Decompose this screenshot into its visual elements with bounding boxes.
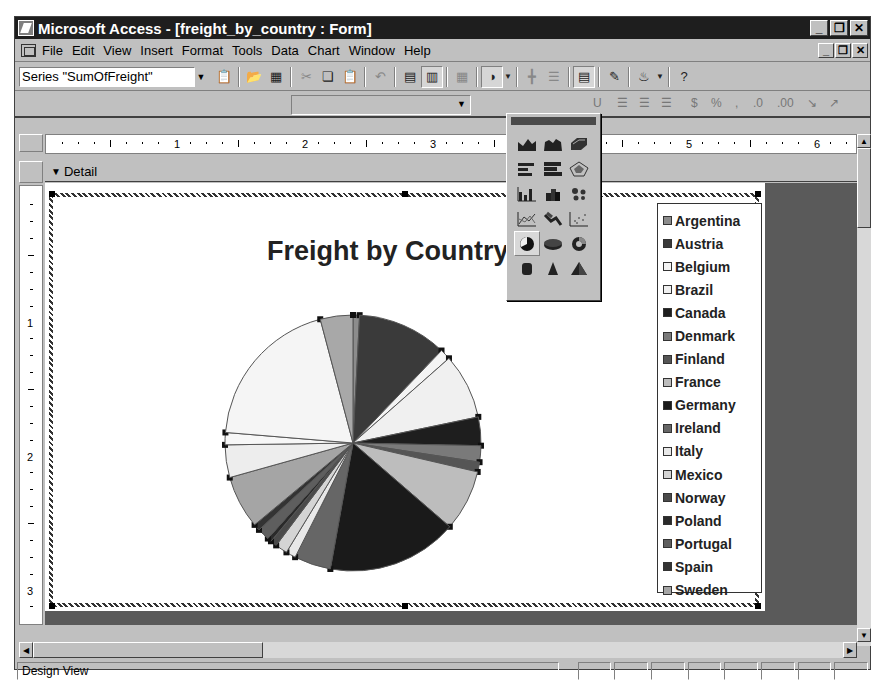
undo-icon[interactable]: ↶ (369, 66, 391, 88)
legend-item[interactable]: Sweden (658, 579, 761, 602)
form-document-icon[interactable] (21, 44, 36, 57)
legend-item[interactable]: Canada (658, 301, 761, 324)
3d-surface-chart-icon[interactable] (566, 131, 592, 156)
menu-file[interactable]: File (42, 43, 63, 58)
angle-text-down-icon[interactable]: ↘ (807, 96, 817, 110)
legend-item[interactable]: France (658, 371, 761, 394)
bubble-chart-icon[interactable] (566, 181, 592, 206)
close-button[interactable]: ✕ (850, 20, 868, 36)
column-chart-icon[interactable] (514, 181, 540, 206)
section-selector[interactable] (19, 161, 43, 183)
3d-line-chart-icon[interactable] (540, 206, 566, 231)
bar-chart-icon[interactable] (514, 156, 540, 181)
line-chart-icon[interactable] (514, 206, 540, 231)
menu-window[interactable]: Window (349, 43, 395, 58)
comma-icon[interactable]: , (735, 96, 738, 110)
legend-item[interactable]: Finland (658, 348, 761, 371)
cone-chart-icon[interactable] (540, 256, 566, 281)
legend-item[interactable]: Brazil (658, 278, 761, 301)
import-file-icon[interactable]: 📂 (243, 66, 265, 88)
by-row-icon[interactable]: ▤ (399, 66, 421, 88)
xy-scatter-chart-icon[interactable] (566, 206, 592, 231)
angle-text-up-icon[interactable]: ↗ (829, 96, 839, 110)
legend-item[interactable]: Argentina (658, 209, 761, 232)
vertical-scrollbar[interactable]: ▲ ▼ (857, 134, 871, 646)
detail-section-header[interactable]: ▼ Detail (45, 162, 857, 182)
form-selector[interactable] (19, 134, 43, 152)
legend-item[interactable]: Ireland (658, 417, 761, 440)
menu-view[interactable]: View (103, 43, 131, 58)
cut-icon[interactable]: ✂ (295, 66, 317, 88)
radar-chart-icon[interactable] (566, 156, 592, 181)
palette-title-bar[interactable] (511, 117, 596, 125)
chevron-down-icon[interactable]: ▼ (457, 99, 466, 109)
restore-button[interactable]: ❐ (830, 20, 848, 36)
3d-bar-chart-icon[interactable] (540, 156, 566, 181)
legend-item[interactable]: Italy (658, 440, 761, 463)
menu-data[interactable]: Data (271, 43, 298, 58)
align-right-icon[interactable]: ☰ (661, 96, 672, 110)
align-left-icon[interactable]: ☰ (617, 96, 628, 110)
3d-area-chart-icon[interactable] (540, 131, 566, 156)
help-icon[interactable]: ? (673, 66, 695, 88)
chart-type-dropdown-icon[interactable]: ▼ (503, 66, 513, 88)
doc-minimize-button[interactable]: _ (818, 43, 834, 58)
menu-insert[interactable]: Insert (140, 43, 173, 58)
decrease-decimal-icon[interactable]: .00 (777, 96, 794, 110)
legend-item[interactable]: Belgium (658, 255, 761, 278)
increase-decimal-icon[interactable]: .0 (753, 96, 763, 110)
drawing-icon[interactable]: ✎ (603, 66, 625, 88)
legend-item[interactable]: Austria (658, 232, 761, 255)
doc-close-button[interactable]: ✕ (852, 43, 868, 58)
area-chart-icon[interactable] (514, 131, 540, 156)
fill-color-dropdown-icon[interactable]: ▼ (655, 66, 665, 88)
scroll-left-icon[interactable]: ◀ (19, 642, 33, 658)
underline-icon[interactable]: U (593, 96, 602, 110)
legend-item[interactable]: Mexico (658, 463, 761, 486)
percent-icon[interactable]: % (711, 96, 722, 110)
pie-chart[interactable] (221, 311, 485, 575)
legend-item[interactable]: Norway (658, 486, 761, 509)
category-gridlines-icon[interactable]: ╋ (521, 66, 543, 88)
scroll-right-icon[interactable]: ▶ (843, 642, 857, 658)
font-combo[interactable]: ▼ (291, 95, 471, 115)
view-datasheet-icon[interactable]: ▦ (265, 66, 287, 88)
scroll-down-icon[interactable]: ▼ (857, 628, 871, 642)
doc-restore-button[interactable]: ❐ (835, 43, 851, 58)
cylinder-chart-icon[interactable] (514, 256, 540, 281)
legend-item[interactable]: Portugal (658, 532, 761, 555)
pie-chart-icon[interactable] (514, 231, 540, 256)
3d-column-chart-icon[interactable] (540, 181, 566, 206)
menu-format[interactable]: Format (182, 43, 223, 58)
chart-title[interactable]: Freight by Country (267, 236, 509, 267)
menu-help[interactable]: Help (404, 43, 431, 58)
by-column-icon[interactable]: ▥ (421, 66, 443, 88)
copy-icon[interactable]: ❏ (317, 66, 339, 88)
currency-icon[interactable]: $ (691, 96, 698, 110)
legend-item[interactable]: Germany (658, 394, 761, 417)
chevron-down-icon[interactable]: ▼ (194, 68, 208, 86)
legend-item[interactable]: Spain (658, 555, 761, 578)
data-table-icon[interactable]: ▦ (451, 66, 473, 88)
fill-color-icon[interactable]: ♨ (633, 66, 655, 88)
legend-item[interactable]: Denmark (658, 324, 761, 347)
horizontal-scroll-thumb[interactable] (33, 642, 263, 658)
vertical-scroll-thumb[interactable] (857, 148, 871, 228)
doughnut-chart-icon[interactable] (566, 231, 592, 256)
align-center-icon[interactable]: ☰ (639, 96, 650, 110)
minimize-button[interactable]: _ (810, 20, 828, 36)
legend-item[interactable]: Poland (658, 509, 761, 532)
menu-edit[interactable]: Edit (72, 43, 94, 58)
chart-objects-combo[interactable]: Series "SumOfFreight" ▼ (19, 67, 195, 87)
scroll-up-icon[interactable]: ▲ (857, 134, 871, 148)
menu-chart[interactable]: Chart (308, 43, 340, 58)
menu-tools[interactable]: Tools (232, 43, 262, 58)
pyramid-chart-icon[interactable] (566, 256, 592, 281)
horizontal-scrollbar[interactable]: ◀ ▶ (19, 642, 857, 658)
legend-icon[interactable]: ▤ (573, 66, 595, 88)
format-selected-object-icon[interactable]: 📋 (213, 66, 235, 88)
value-gridlines-icon[interactable]: ☰ (543, 66, 565, 88)
paste-icon[interactable]: 📋 (339, 66, 361, 88)
3d-pie-chart-icon[interactable] (540, 231, 566, 256)
chart-legend[interactable]: ArgentinaAustriaBelgiumBrazilCanadaDenma… (657, 203, 762, 593)
